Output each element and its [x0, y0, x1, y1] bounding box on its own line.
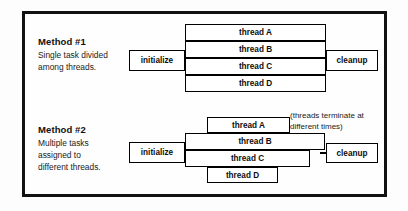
method-1-description-line-1: Single task divided [38, 50, 108, 61]
method-1-thread-d-box[interactable]: thread D [185, 75, 326, 92]
method-2-description-line-1: Multiple tasks [38, 138, 89, 149]
method-1-cleanup-box[interactable]: cleanup [326, 50, 378, 71]
method-2-description-line-2: assigned to [38, 150, 81, 161]
method-2-thread-b-box[interactable]: thread B [185, 133, 325, 150]
method-1-thread-c-box[interactable]: thread C [185, 58, 326, 75]
method-1-title: Method #1 [38, 36, 86, 47]
method-1-description-line-2: among threads. [38, 62, 96, 73]
method-2-thread-c-box[interactable]: thread C [185, 150, 310, 167]
method-1-thread-b-box[interactable]: thread B [185, 41, 326, 58]
method-2-initialize-box[interactable]: initialize [129, 142, 185, 163]
method-2-thread-a-box[interactable]: thread A [207, 117, 290, 133]
method-2-cleanup-box[interactable]: cleanup [326, 143, 378, 163]
method-2-description-line-3: different threads. [38, 162, 101, 173]
thread-termination-annotation-line-2: different times) [290, 121, 343, 132]
method-1-initialize-box[interactable]: initialize [129, 50, 185, 71]
diagram-canvas: Method #1 Single task divided among thre… [0, 0, 408, 211]
method-1-thread-a-box[interactable]: thread A [185, 24, 326, 41]
method-2-thread-d-box[interactable]: thread D [207, 167, 278, 183]
method-2-title: Method #2 [38, 124, 86, 135]
thread-termination-annotation-line-1: (threads terminate at [290, 110, 364, 121]
